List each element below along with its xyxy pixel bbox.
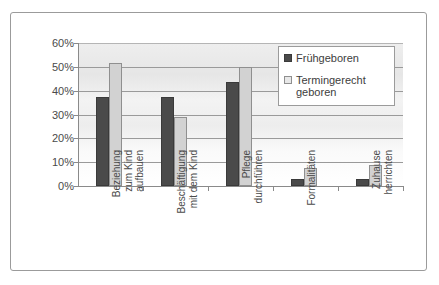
x-axis-category-label: Beziehung zum Kind aufbauen — [111, 150, 146, 240]
bar — [356, 179, 369, 186]
legend-label-termingerecht: Termingerecht geboren — [296, 74, 366, 99]
x-axis-tick — [273, 186, 274, 191]
legend-label-fruehgeboren: Frühgeboren — [296, 52, 359, 65]
x-axis-tick — [338, 186, 339, 191]
x-axis-category-label: Formalitäten — [306, 150, 318, 240]
bar — [291, 179, 304, 186]
legend-swatch-termingerecht — [284, 76, 292, 84]
y-axis-tick-label: 60% — [34, 38, 74, 49]
bar — [96, 97, 109, 186]
gridline — [79, 43, 403, 44]
chart-legend: Frühgeboren Termingerecht geboren — [278, 46, 395, 106]
chart-frame: 60%50%40%30%20%10%0% Beziehung zum Kind … — [10, 12, 427, 271]
x-axis-tick — [403, 186, 404, 191]
bar — [226, 82, 239, 186]
bar — [161, 97, 174, 186]
x-axis-category-label: Pflege durchführen — [241, 150, 264, 240]
y-axis-tick — [74, 162, 78, 163]
x-axis-category-label: Beschäftigung mit dem Kind — [176, 150, 199, 240]
y-axis-tick — [74, 67, 78, 68]
legend-swatch-fruehgeboren — [284, 54, 292, 62]
y-axis-tick — [74, 91, 78, 92]
y-axis-tick-label: 0% — [34, 181, 74, 192]
y-axis: 60%50%40%30%20%10%0% — [31, 13, 74, 213]
y-axis-tick-label: 30% — [34, 110, 74, 121]
y-axis-tick-label: 20% — [34, 133, 74, 144]
x-axis-tick — [208, 186, 209, 191]
y-axis-tick — [74, 138, 78, 139]
x-axis-category-label: Zuhause herrichten — [371, 150, 394, 240]
legend-item: Frühgeboren — [284, 52, 390, 65]
legend-item: Termingerecht geboren — [284, 74, 390, 99]
y-axis-tick-label: 50% — [34, 62, 74, 73]
y-axis-tick-label: 40% — [34, 86, 74, 97]
y-axis-tick — [74, 115, 78, 116]
y-axis-tick — [74, 186, 78, 187]
y-axis-tick — [74, 43, 78, 44]
y-axis-tick-label: 10% — [34, 157, 74, 168]
